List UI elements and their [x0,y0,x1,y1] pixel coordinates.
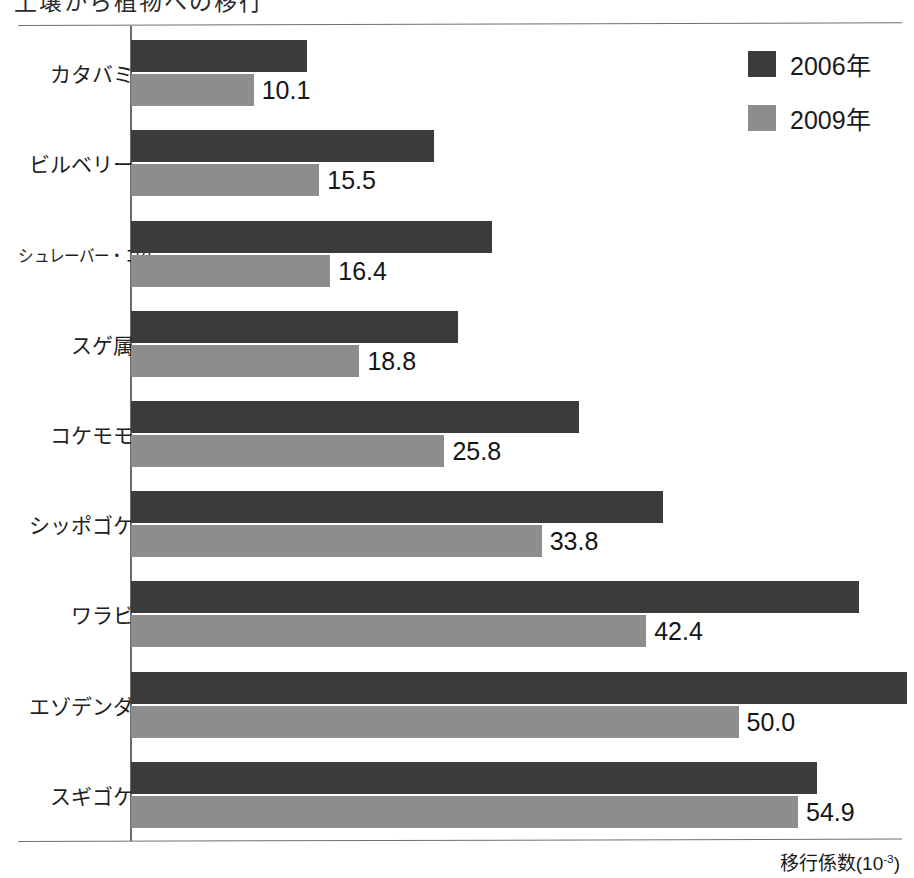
chart-page: 土壌から植物への移行 カタバミ10.1ビルベリー15.5シュレーバー・コケ16.… [0,0,914,878]
legend-item-2009: 2009年 [748,100,908,136]
bar-value-label: 15.5 [327,168,376,193]
bar-2006年 [131,130,434,162]
bar-2009年 [131,615,646,647]
bar-2006年 [131,311,458,343]
bar-2006年 [131,581,859,613]
bar-value-label: 25.8 [452,439,501,464]
bar-group: エゾデンダ50.0 [0,660,914,750]
bar-2006年 [131,401,579,433]
bar-2006年 [131,221,492,253]
cropped-title-strip: 土壌から植物への移行 [0,0,914,14]
x-axis-caption-close: ) [894,853,900,874]
x-axis-caption-exponent: -3 [883,852,893,865]
bar-group: シュレーバー・コケ16.4 [0,208,914,298]
bar-group: ワラビ42.4 [0,569,914,659]
legend-label-2006: 2006年 [790,46,871,82]
legend-label-2009: 2009年 [790,100,871,136]
category-label: シッポゴケ [8,509,138,539]
bar-group: スギゴケ54.9 [0,750,914,840]
bar-2009年 [131,525,542,557]
category-label: シュレーバー・コケ [18,241,138,266]
bar-2006年 [131,762,817,794]
bar-value-label: 50.0 [747,710,796,735]
bar-value-label: 33.8 [550,529,599,554]
category-label: カタバミ [8,58,138,88]
category-label: コケモモ [8,419,138,449]
bar-2006年 [131,672,907,704]
bar-value-label: 16.4 [338,259,387,284]
page-title: 土壌から植物への移行 [14,0,264,14]
bar-group: コケモモ25.8 [0,389,914,479]
x-axis-caption: 移行係数(10-3) [780,848,900,875]
category-label: スゲ属 [8,329,138,359]
bar-2006年 [131,40,307,72]
category-label: ビルベリー [8,148,138,178]
bar-2009年 [131,435,444,467]
bar-value-label: 18.8 [367,349,416,374]
legend-swatch-2009-icon [748,105,776,131]
category-label: スギゴケ [8,780,138,810]
bar-value-label: 54.9 [806,800,855,825]
bar-2006年 [131,491,663,523]
bar-2009年 [131,345,359,377]
bar-group: シッポゴケ33.8 [0,479,914,569]
x-axis-caption-base: 移行係数(10 [780,853,883,874]
bar-value-label: 10.1 [262,78,311,103]
legend-swatch-2006-icon [748,51,776,77]
bar-2009年 [131,74,254,106]
category-label: ワラビ [8,599,138,629]
bar-2009年 [131,796,798,828]
category-label: エゾデンダ [8,690,138,720]
bar-value-label: 42.4 [654,619,703,644]
bar-2009年 [131,255,330,287]
top-frame-rule [18,22,902,26]
bar-group: スゲ属18.8 [0,299,914,389]
bar-2009年 [131,164,319,196]
legend-item-2006: 2006年 [748,46,908,82]
bar-2009年 [131,706,739,738]
chart-legend: 2006年 2009年 [748,46,908,154]
